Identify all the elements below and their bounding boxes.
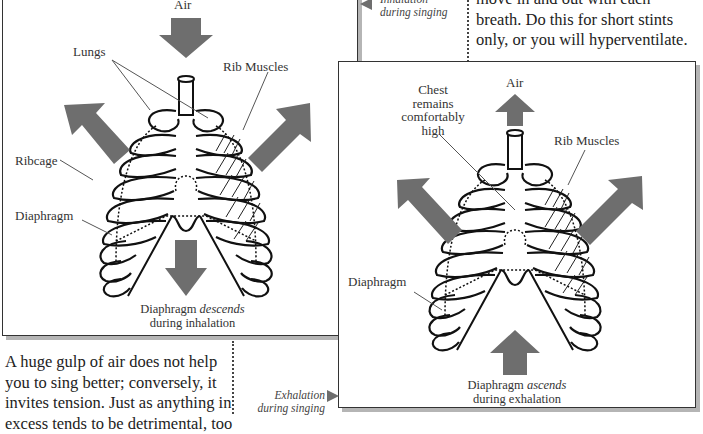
diaphragm-down-arrow-icon [165, 240, 207, 296]
ribcage-expand-right-arrow-icon [248, 103, 311, 172]
ribcage-right-arrow-icon [576, 176, 643, 245]
label-lungs: Lungs [73, 45, 106, 59]
caption-emphasis: ascends [527, 378, 567, 392]
label-air-inhale: Air [174, 0, 191, 12]
air-up-arrow-icon [495, 94, 535, 126]
label-diaphragm-exhale: Diaphragm [348, 275, 406, 289]
caption-emphasis: descends [200, 302, 245, 316]
label-diaphragm-inhale: Diaphragm [15, 209, 73, 223]
inhalation-caption: Diaphragm descends during inhalation [130, 302, 255, 330]
paragraph-line: excess tends to be detrimental, too [5, 414, 232, 434]
air-down-arrow-icon [159, 18, 213, 58]
label-ribcage: Ribcage [15, 154, 58, 168]
label-air-exhale: Air [506, 76, 523, 90]
label-rib-muscles-exhale: Rib Muscles [554, 134, 619, 148]
exhalation-caption: Diaphragm ascends during exhalation [462, 378, 572, 406]
ribcage-expand-left-arrow-icon [64, 103, 130, 164]
diaphragm-up-arrow-icon [490, 330, 540, 375]
label-rib-muscles-inhale: Rib Muscles [223, 60, 288, 74]
label-chest-high: Chest remains comfortably high [388, 83, 478, 137]
ribcage-left-arrow-icon [397, 178, 462, 244]
